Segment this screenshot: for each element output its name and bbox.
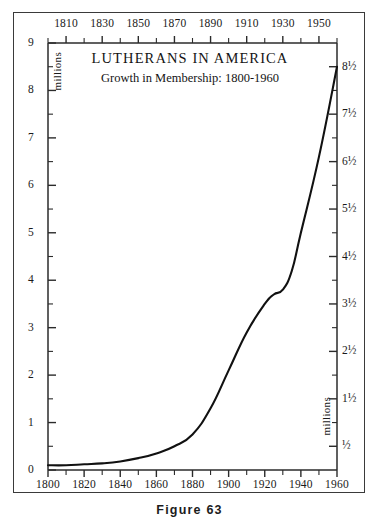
y-axis-label-right-2.5: 2½: [342, 346, 356, 358]
y-axis-label-left-2: 2: [28, 369, 34, 381]
y-axis-label-left-9: 9: [28, 37, 34, 49]
y-axis-label-right-6.5: 6½: [342, 156, 356, 168]
x-axis-label-bottom-1860: 1860: [144, 479, 168, 491]
x-axis-label-bottom-1800: 1800: [36, 479, 60, 491]
x-axis-label-bottom-1880: 1880: [181, 479, 205, 491]
y-axis-label-right-0.5: ½: [342, 441, 351, 453]
y-axis-label-right-5.5: 5½: [342, 203, 356, 215]
y-axis-label-left-4: 4: [28, 274, 34, 286]
x-axis-label-bottom-1940: 1940: [289, 479, 313, 491]
x-axis-label-bottom-1820: 1820: [72, 479, 96, 491]
ticks-group: [48, 36, 337, 477]
y-axis-label-left-1: 1: [28, 417, 34, 429]
x-axis-label-bottom-1840: 1840: [108, 479, 132, 491]
y-axis-label-right-7.5: 7½: [342, 108, 356, 120]
x-axis-label-top-1830: 1830: [90, 18, 114, 30]
y-axis-unit-left: millions: [51, 52, 63, 90]
axes-group: [48, 43, 337, 470]
y-axis-label-left-7: 7: [28, 132, 34, 144]
y-axis-label-left-5: 5: [28, 227, 34, 239]
x-axis-label-top-1810: 1810: [54, 18, 78, 30]
y-axis-label-right-4.5: 4½: [342, 251, 356, 263]
x-axis-label-top-1930: 1930: [271, 18, 295, 30]
y-axis-label-right-1.5: 1½: [342, 393, 356, 405]
x-axis-label-bottom-1920: 1920: [253, 479, 277, 491]
y-axis-unit-right: millions: [320, 397, 332, 435]
y-axis-label-left-8: 8: [28, 85, 34, 97]
figure-caption: Figure 63: [0, 503, 379, 517]
y-axis-label-right-3.5: 3½: [342, 298, 356, 310]
y-axis-label-left-6: 6: [28, 180, 34, 192]
x-axis-label-top-1950: 1950: [307, 18, 331, 30]
y-axis-label-left-0: 0: [28, 464, 34, 476]
y-axis-label-left-3: 3: [28, 322, 34, 334]
x-axis-label-top-1850: 1850: [126, 18, 150, 30]
x-axis-label-top-1910: 1910: [235, 18, 259, 30]
x-axis-label-bottom-1960: 1960: [325, 479, 349, 491]
data-curve-lutheran-membership: [48, 67, 337, 466]
x-axis-label-top-1890: 1890: [199, 18, 223, 30]
x-axis-label-top-1870: 1870: [163, 18, 187, 30]
figure-root: 1800182018401860188019001920194019601810…: [0, 0, 379, 525]
y-axis-label-right-8.5: 8½: [342, 61, 356, 73]
x-axis-label-bottom-1900: 1900: [217, 479, 241, 491]
